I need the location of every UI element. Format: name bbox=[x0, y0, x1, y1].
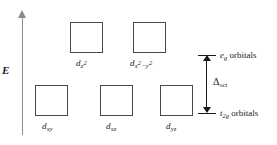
orbital-label-dz2: dz2 bbox=[76, 58, 87, 68]
delta-oct-arrow-shaft bbox=[206, 59, 207, 110]
orbital-label-dxz-base: d bbox=[106, 121, 111, 131]
t2g-level-tick bbox=[198, 113, 216, 114]
t2g-suffix: orbitals bbox=[229, 108, 258, 118]
orbital-label-dz2-sub: z2 bbox=[81, 62, 87, 69]
orbital-box-dxy bbox=[35, 85, 68, 116]
eg-set-label: eg orbitals bbox=[220, 50, 257, 60]
orbital-box-dyz bbox=[160, 85, 193, 116]
orbital-box-dz2 bbox=[70, 22, 103, 53]
orbital-label-dx2-y2: dx2−y2 bbox=[130, 58, 152, 68]
orbital-label-dyz-base: d bbox=[166, 121, 171, 131]
energy-axis-label: E bbox=[2, 64, 9, 76]
delta-oct-arrowhead-down-icon bbox=[203, 107, 211, 113]
orbital-label-dxz: dxz bbox=[106, 121, 117, 131]
crystal-field-splitting-diagram: E dz2 dx2−y2 dxy dxz dyz Δoct eg orbital… bbox=[0, 0, 277, 145]
orbital-label-dyz-sub: yz bbox=[171, 125, 177, 132]
orbital-label-dx2-y2-sup-1: 2 bbox=[138, 59, 141, 66]
orbital-label-dyz: dyz bbox=[166, 121, 177, 131]
orbital-box-dx2-y2 bbox=[133, 22, 166, 53]
eg-suffix: orbitals bbox=[227, 50, 256, 60]
orbital-box-dxz bbox=[100, 85, 133, 116]
delta-subscript: oct bbox=[219, 81, 227, 88]
orbital-label-dx2-y2-sup-2: 2 bbox=[149, 59, 152, 66]
orbital-label-dz2-sup: 2 bbox=[83, 59, 86, 66]
t2g-set-label: t2g orbitals bbox=[220, 108, 258, 118]
orbital-label-dx2-y2-sub: x2−y2 bbox=[135, 62, 153, 69]
orbital-label-dxy-base: d bbox=[42, 121, 47, 131]
energy-axis-line bbox=[22, 16, 23, 135]
t2g-subscript: 2g bbox=[223, 112, 230, 119]
delta-oct-arrowhead-up-icon bbox=[203, 55, 211, 61]
eg-subscript: g bbox=[224, 54, 227, 61]
orbital-label-dxz-sub: xz bbox=[111, 125, 117, 132]
orbital-label-dxy-sub: xy bbox=[47, 125, 53, 132]
orbital-label-dx2-y2-sub-y: −y bbox=[141, 62, 149, 69]
delta-oct-label: Δoct bbox=[213, 76, 227, 87]
orbital-label-dxy: dxy bbox=[42, 121, 53, 131]
